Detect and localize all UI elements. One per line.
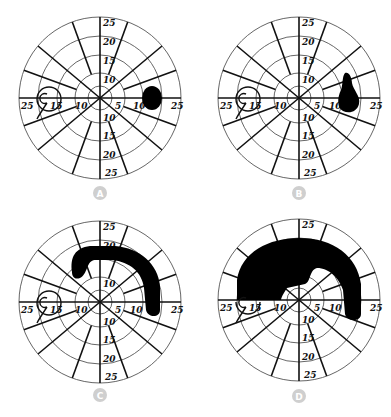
svg-text:25: 25 <box>102 222 116 232</box>
svg-text:25: 25 <box>369 303 383 313</box>
svg-text:25: 25 <box>303 168 317 178</box>
svg-text:25: 25 <box>301 220 315 230</box>
svg-text:20: 20 <box>301 37 315 47</box>
svg-text:20: 20 <box>102 150 116 160</box>
svg-text:25: 25 <box>20 101 34 111</box>
visual-field-chart-a: 25 20 15 10 10 15 20 25 25 15 10 5 10 25 <box>0 0 200 205</box>
svg-text:10: 10 <box>75 101 88 111</box>
svg-text:5: 5 <box>115 305 121 315</box>
svg-text:25: 25 <box>219 101 233 111</box>
svg-text:10: 10 <box>103 279 116 289</box>
panel-badge-d: D <box>292 389 306 403</box>
svg-text:10: 10 <box>302 315 315 325</box>
svg-text:20: 20 <box>102 37 116 47</box>
svg-text:25: 25 <box>170 101 184 111</box>
svg-text:15: 15 <box>103 335 116 345</box>
svg-text:10: 10 <box>302 75 315 85</box>
panel-badge-b: B <box>292 186 306 200</box>
panel-b: 25 20 15 10 10 15 20 25 25 15 10 5 10 25 <box>199 0 391 205</box>
svg-text:A: A <box>97 189 104 199</box>
panel-d: 25 10 15 20 25 25 15 10 5 10 25 D <box>199 202 391 417</box>
svg-text:15: 15 <box>302 131 315 141</box>
scotoma-b <box>338 73 359 113</box>
svg-text:10: 10 <box>274 101 287 111</box>
panel-a: 25 20 15 10 10 15 20 25 25 15 10 5 10 25 <box>0 0 200 205</box>
svg-text:15: 15 <box>103 56 116 66</box>
svg-text:25: 25 <box>104 168 118 178</box>
svg-text:25: 25 <box>102 18 116 28</box>
panel-badge-c: C <box>93 388 107 402</box>
panel-badge-a: A <box>93 186 107 200</box>
svg-text:20: 20 <box>301 352 315 362</box>
svg-text:20: 20 <box>102 354 116 364</box>
svg-text:25: 25 <box>303 370 317 380</box>
svg-text:C: C <box>97 391 104 401</box>
svg-text:10: 10 <box>103 113 116 123</box>
svg-text:15: 15 <box>302 333 315 343</box>
svg-text:5: 5 <box>115 101 121 111</box>
svg-text:10: 10 <box>274 303 287 313</box>
visual-field-chart-d: 25 10 15 20 25 25 15 10 5 10 25 D <box>199 202 391 417</box>
svg-text:B: B <box>296 189 303 199</box>
svg-text:15: 15 <box>103 131 116 141</box>
svg-text:10: 10 <box>130 305 143 315</box>
svg-text:25: 25 <box>104 372 118 382</box>
svg-text:10: 10 <box>329 303 342 313</box>
svg-text:10: 10 <box>103 317 116 327</box>
svg-text:25: 25 <box>369 101 383 111</box>
svg-text:10: 10 <box>103 75 116 85</box>
svg-text:25: 25 <box>20 305 34 315</box>
visual-field-chart-b: 25 20 15 10 10 15 20 25 25 15 10 5 10 25 <box>199 0 391 205</box>
svg-text:5: 5 <box>314 101 320 111</box>
svg-text:10: 10 <box>302 113 315 123</box>
svg-text:25: 25 <box>170 305 184 315</box>
svg-text:15: 15 <box>302 56 315 66</box>
svg-text:10: 10 <box>75 305 88 315</box>
svg-text:20: 20 <box>301 150 315 160</box>
visual-field-chart-c: 25 20 10 10 15 20 25 25 15 10 5 10 25 <box>0 204 200 417</box>
svg-text:5: 5 <box>314 303 320 313</box>
svg-text:D: D <box>295 392 302 402</box>
svg-text:25: 25 <box>219 303 233 313</box>
panel-c: 25 20 10 10 15 20 25 25 15 10 5 10 25 <box>0 204 200 417</box>
svg-text:25: 25 <box>301 18 315 28</box>
scotoma-a <box>142 86 162 110</box>
